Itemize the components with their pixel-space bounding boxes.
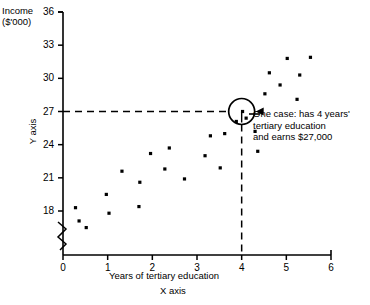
data-point	[309, 56, 312, 59]
x-tick-label: 4	[235, 262, 249, 273]
x-axis-label: Years of tertiary education	[109, 270, 219, 281]
data-point	[219, 166, 222, 169]
y-tick-label: 24	[32, 139, 54, 150]
data-point	[298, 73, 301, 76]
data-point	[77, 219, 80, 222]
data-point	[256, 150, 259, 153]
y-tick-label: 36	[32, 6, 54, 17]
data-point	[138, 181, 141, 184]
y-tick-label: 27	[32, 106, 54, 117]
data-point	[137, 205, 140, 208]
annotation-line: One case: has 4 years'	[253, 108, 350, 120]
data-point	[278, 83, 281, 86]
scatter-chart: Income ($'000) Y axis 18212427303336 012…	[0, 0, 370, 305]
data-point	[295, 98, 298, 101]
y-tick-label: 21	[32, 172, 54, 183]
data-point	[163, 167, 166, 170]
data-point	[107, 212, 110, 215]
data-point	[183, 177, 186, 180]
data-point	[120, 170, 123, 173]
data-point	[245, 117, 248, 120]
y-tick-label: 18	[32, 205, 54, 216]
data-point	[268, 71, 271, 74]
data-point	[203, 154, 206, 157]
x-axis-name: X axis	[160, 285, 186, 296]
axis-break-symbol	[58, 222, 66, 250]
data-point	[149, 152, 152, 155]
y-tick-label: 30	[32, 72, 54, 83]
y-tick-label: 33	[32, 39, 54, 50]
data-point	[85, 226, 88, 229]
annotation-line: and earns $27,000	[253, 131, 350, 143]
x-tick-label: 5	[279, 262, 293, 273]
case-annotation: One case: has 4 years'tertiary education…	[253, 108, 350, 143]
data-point	[74, 206, 77, 209]
plot-canvas	[0, 0, 370, 305]
data-point	[168, 146, 171, 149]
data-point	[223, 132, 226, 135]
data-point	[105, 193, 108, 196]
data-point	[286, 57, 289, 60]
x-tick-label: 6	[324, 262, 338, 273]
data-point	[263, 92, 266, 95]
annotation-line: tertiary education	[253, 120, 350, 132]
data-point	[209, 134, 212, 137]
y-axis-heading: Income	[2, 5, 33, 16]
x-tick-label: 0	[56, 262, 70, 273]
y-axis-units: ($'000)	[2, 16, 31, 27]
